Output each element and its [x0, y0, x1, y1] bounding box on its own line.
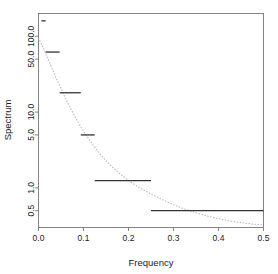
- y-axis-tick-label: 1.0: [26, 182, 36, 194]
- x-axis-tick-label: 0.2: [123, 233, 135, 243]
- x-axis-title: Frequency: [129, 257, 174, 268]
- y-axis-tick-label: 50.0: [26, 51, 36, 68]
- x-axis-tick-label: 0.5: [258, 233, 270, 243]
- x-axis-tick-label: 0.3: [168, 233, 180, 243]
- y-axis-title: Spectrum: [2, 100, 13, 141]
- y-axis-tick-label: 5.0: [26, 129, 36, 141]
- chart-canvas: 0.51.05.010.050.0100.0 0.00.10.20.30.40.…: [0, 0, 278, 274]
- spectrum-plot: 0.51.05.010.050.0100.0 0.00.10.20.30.40.…: [0, 0, 278, 274]
- y-axis-tick-label: 10.0: [26, 104, 36, 121]
- y-axis-tick-label: 100.0: [26, 25, 36, 47]
- x-axis-tick-label: 0.0: [33, 233, 45, 243]
- x-axis-tick-label: 0.1: [78, 233, 90, 243]
- y-axis-tick-label: 0.5: [26, 205, 36, 217]
- x-axis-tick-label: 0.4: [213, 233, 225, 243]
